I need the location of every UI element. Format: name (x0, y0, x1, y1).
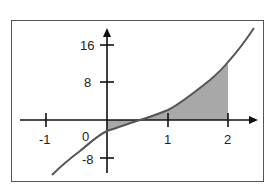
x-tick-label-2: 2 (224, 132, 231, 147)
y-tick-label-8: 8 (84, 75, 91, 90)
x-axis-arrow-icon (249, 116, 258, 124)
y-axis-arrow-icon (103, 28, 111, 37)
y-tick-label-neg8: -8 (82, 152, 94, 167)
y-tick-label-16: 16 (80, 38, 94, 53)
origin-label: 0 (82, 129, 89, 144)
x-tick-label-1: 1 (164, 132, 171, 147)
chart-plot: -1 1 2 16 8 -8 0 (0, 0, 268, 190)
x-tick-label-neg1: -1 (39, 132, 51, 147)
